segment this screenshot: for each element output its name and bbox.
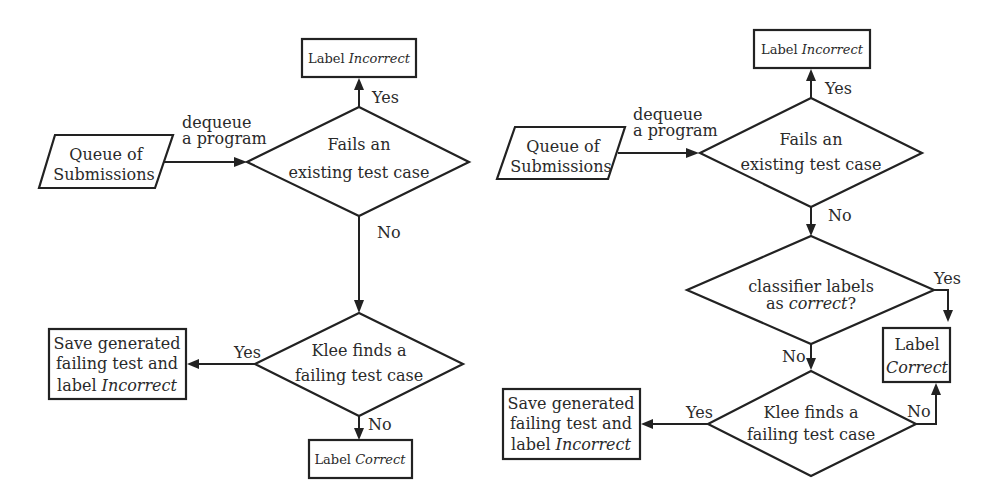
right-klee-line1: Klee finds a bbox=[763, 403, 859, 422]
right-save-line2: failing test and bbox=[510, 414, 632, 433]
right-fails-line2: existing test case bbox=[741, 155, 882, 174]
svg-text:label Incorrect: label Incorrect bbox=[57, 376, 178, 395]
right-label-incorrect-node: Label Incorrect bbox=[754, 30, 870, 68]
left-incorrect-emph: Incorrect bbox=[348, 51, 411, 66]
right-save-line1: Save generated bbox=[508, 394, 635, 413]
right-no-down-edge: No bbox=[806, 206, 852, 236]
right-correct-line1: Label bbox=[895, 335, 940, 354]
left-queue-line1: Queue of bbox=[69, 145, 143, 164]
left-correct-prefix: Label bbox=[314, 452, 355, 467]
right-no-classifier-label: No bbox=[782, 347, 806, 366]
right-queue-node: Queue of Submissions bbox=[497, 127, 625, 179]
right-correct-line2: Correct bbox=[886, 358, 949, 377]
left-save-failing-test-node: Save generated failing test and label In… bbox=[49, 329, 186, 399]
right-queue-line1: Queue of bbox=[526, 137, 600, 156]
right-save-line3-emph: Incorrect bbox=[555, 435, 632, 454]
left-yes-top-label: Yes bbox=[371, 88, 399, 107]
right-dequeue-edge: dequeue a program bbox=[618, 105, 718, 158]
right-decision-fails-test: Fails an existing test case bbox=[700, 98, 922, 207]
left-label-incorrect-node: Label Incorrect bbox=[302, 39, 416, 77]
right-yes-top-edge: Yes bbox=[806, 69, 852, 98]
right-incorrect-emph: Incorrect bbox=[801, 42, 864, 57]
svg-text:Label Incorrect: Label Incorrect bbox=[308, 51, 411, 66]
right-save-failing-test-node: Save generated failing test and label In… bbox=[503, 389, 640, 459]
right-queue-line2: Submissions bbox=[510, 157, 611, 176]
left-fails-line1: Fails an bbox=[328, 135, 391, 154]
left-save-line1: Save generated bbox=[54, 334, 181, 353]
left-save-line2: failing test and bbox=[56, 354, 178, 373]
right-fails-line1: Fails an bbox=[780, 130, 843, 149]
left-decision-fails-test: Fails an existing test case bbox=[247, 107, 469, 216]
left-save-line3-prefix: label bbox=[57, 376, 102, 395]
right-yes-right-edge: Yes bbox=[933, 269, 961, 322]
left-no-down-label: No bbox=[377, 223, 401, 242]
right-no-classifier-edge: No bbox=[782, 344, 816, 370]
left-klee-line2: failing test case bbox=[295, 366, 423, 385]
right-flowchart: Queue of Submissions dequeue a program F… bbox=[497, 30, 961, 476]
left-klee-line1: Klee finds a bbox=[311, 341, 407, 360]
left-no-down-edge: No bbox=[354, 216, 401, 313]
right-classifier-line2-suffix: ? bbox=[848, 294, 857, 313]
svg-text:label Incorrect: label Incorrect bbox=[511, 435, 632, 454]
right-dequeue-line2: a program bbox=[633, 121, 718, 140]
right-no-down-label: No bbox=[828, 206, 852, 225]
right-incorrect-prefix: Label bbox=[761, 42, 802, 57]
left-label-correct-node: Label Correct bbox=[309, 440, 412, 478]
right-classifier-line2-emph: correct bbox=[789, 294, 848, 313]
left-yes-left-edge: Yes bbox=[187, 343, 261, 369]
right-yes-right-label: Yes bbox=[933, 269, 961, 288]
right-classifier-line2-prefix: as bbox=[766, 294, 789, 313]
left-no-bottom-edge: No bbox=[354, 415, 392, 440]
left-yes-left-label: Yes bbox=[233, 343, 261, 362]
svg-text:Label Incorrect: Label Incorrect bbox=[761, 42, 864, 57]
left-save-line3-emph: Incorrect bbox=[101, 376, 178, 395]
left-queue-line2: Submissions bbox=[53, 165, 154, 184]
svg-text:as correct?: as correct? bbox=[766, 294, 856, 313]
left-dequeue-line2: a program bbox=[182, 129, 267, 148]
left-correct-emph: Correct bbox=[355, 452, 406, 467]
svg-text:Label Correct: Label Correct bbox=[314, 452, 406, 467]
right-klee-line2: failing test case bbox=[747, 425, 875, 444]
left-yes-top-edge: Yes bbox=[354, 78, 399, 107]
right-decision-klee: Klee finds a failing test case bbox=[708, 371, 916, 476]
right-save-line3-prefix: label bbox=[511, 435, 556, 454]
left-queue-node: Queue of Submissions bbox=[39, 135, 173, 188]
flowchart-canvas: Queue of Submissions dequeue a program F… bbox=[0, 0, 997, 504]
left-decision-klee: Klee finds a failing test case bbox=[255, 313, 463, 416]
left-incorrect-prefix: Label bbox=[308, 51, 349, 66]
right-no-right-label: No bbox=[907, 402, 931, 421]
right-yes-left-label: Yes bbox=[685, 403, 713, 422]
right-no-right-edge: No bbox=[907, 383, 941, 424]
right-yes-left-edge: Yes bbox=[641, 403, 713, 429]
left-no-bottom-label: No bbox=[368, 415, 392, 434]
left-flowchart: Queue of Submissions dequeue a program F… bbox=[39, 39, 469, 478]
right-label-correct-node: Label Correct bbox=[883, 328, 950, 382]
left-fails-line2: existing test case bbox=[289, 163, 430, 182]
right-yes-top-label: Yes bbox=[824, 79, 852, 98]
